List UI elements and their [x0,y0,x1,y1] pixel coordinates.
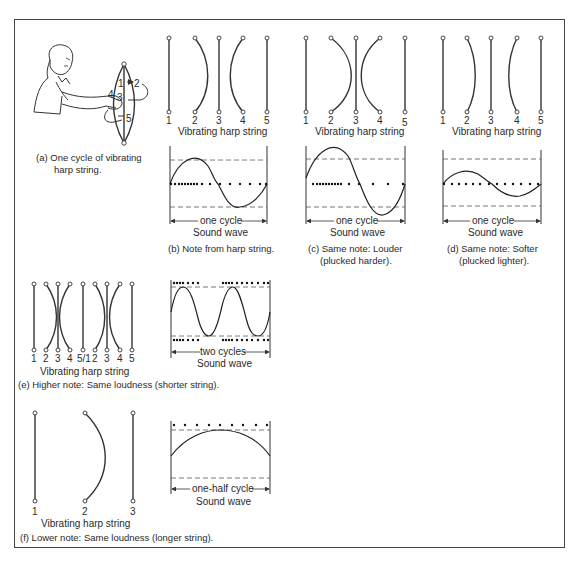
string-label: 3 [55,353,61,364]
string-position-5: 5 [126,113,132,124]
caption-c-line1: (c) Same note: Louder [308,243,403,254]
strings-title-d: Vibrating harp string [452,126,541,137]
string-label: 2 [82,506,88,517]
string-label: 4 [67,353,73,364]
cycle-label-e: two cycles [200,346,246,357]
panel-f-wave: one-half cycle Sound wave [171,421,270,507]
vibrating-string-lens [114,62,148,145]
strings-title-b: Vibrating harp string [178,126,267,137]
air-pressure-dots [312,183,404,185]
panel-a: 1 2 3 4 5 (a) One cycle of vibrating har… [34,45,148,175]
caption-a-line2: harp string. [54,164,102,175]
cycle-label-d: one cycle [472,215,515,226]
string-label: 1 [32,506,38,517]
caption-d-line1: (d) Same note: Softer [447,243,538,254]
wave-title-e: Sound wave [197,358,252,369]
string-label: 3 [216,115,222,126]
wave-title-b: Sound wave [193,227,248,238]
harp-sound-diagram: 1 2 3 4 5 (a) One cycle of vibrating har… [0,0,580,563]
panel-d-wave: one cycle Sound wave (d) Same note: Soft… [443,150,541,266]
panel-b-strings: 1 2 3 4 5 Vibrating harp string [166,36,270,137]
string-label: 3 [488,115,494,126]
caption-a-line1: (a) One cycle of vibrating [36,152,142,163]
string-label: 2 [464,115,470,126]
string-label: 4 [377,115,383,126]
harpist-illustration [34,45,122,123]
compression-dots-bottom [173,339,269,341]
string-label: 3 [104,353,110,364]
string-label: 3 [353,115,359,126]
strings-title-c: Vibrating harp string [315,126,404,137]
wave-title-d: Sound wave [468,227,523,238]
compression-dots-top [173,282,269,284]
panel-c-strings: 1 2 3 4 5 Vibrating harp string [303,36,408,137]
string-label: 2 [192,115,198,126]
cycle-label-b: one cycle [200,215,243,226]
string-label: 1 [303,115,309,126]
string-label: 4 [240,115,246,126]
panel-f-strings: 1 2 3 Vibrating harp string (f) Lower no… [20,411,213,543]
caption-c-line2: (plucked harder). [320,255,392,266]
string-position-4: 4 [108,89,114,100]
caption-b: (b) Note from harp string. [168,243,274,254]
string-position-3: 3 [117,92,123,103]
string-label: 3 [130,506,136,517]
string-label: 1 [166,115,172,126]
string-label: 5 [538,115,544,126]
string-label: 5 [264,115,270,126]
string-position-1: 1 [118,78,124,89]
panel-d-strings: 1 2 3 4 5 Vibrating harp string [440,36,544,137]
strings-title-e: Vibrating harp string [40,366,129,377]
string-label: 2 [92,353,98,364]
string-position-2: 2 [134,78,140,89]
string-label: 5 [129,353,135,364]
string-label: 4 [117,353,123,364]
string-label: 2 [328,115,334,126]
string-label: 5/1 [77,353,91,364]
panel-e-wave: two cycles Sound wave [171,280,270,369]
wave-title-c: Sound wave [330,227,385,238]
panel-c-wave: one cycle Sound wave (c) Same note: Loud… [306,146,405,266]
string-label: 1 [31,353,37,364]
string-label: 2 [43,353,49,364]
caption-e: (e) Higher note: Same loudness (shorter … [18,379,219,390]
panel-b-wave: one cycle Sound wave (b) Note from harp … [168,146,274,254]
cycle-label-f: one-half cycle [192,483,254,494]
air-pressure-dots [173,424,268,426]
strings-title-f: Vibrating harp string [41,518,130,529]
string-label: 4 [514,115,520,126]
cycle-label-c: one cycle [336,215,379,226]
caption-d-line2: (plucked lighter). [459,255,529,266]
caption-f: (f) Lower note: Same loudness (longer st… [20,532,213,543]
string-label: 1 [440,115,446,126]
wave-title-f: Sound wave [196,496,251,507]
